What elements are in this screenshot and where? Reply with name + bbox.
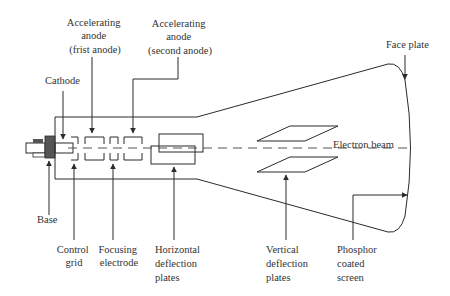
- label-phosphor-screen: Phosphor coated screen: [337, 244, 379, 283]
- crt-diagram: Accelerating anode (frist anode) Acceler…: [0, 0, 450, 296]
- label-vertical-plates: Vertical deflection plates: [266, 244, 311, 283]
- label-electron-beam: Electron beam: [333, 139, 394, 150]
- label-base: Base: [37, 214, 58, 225]
- label-second-anode: Accelerating anode (second anode): [148, 18, 212, 57]
- label-control-grid: Control grid: [57, 244, 92, 268]
- vertical-deflection-plates: [257, 126, 338, 172]
- label-face-plate: Face plate: [386, 39, 429, 50]
- horizontal-deflection-plates: [151, 134, 203, 164]
- base: [26, 136, 55, 158]
- label-horizontal-plates: Horizontal deflection plates: [155, 244, 203, 283]
- label-focusing-electrode: Focusing electrode: [98, 244, 139, 268]
- label-first-anode: Accelerating anode (frist anode): [67, 17, 123, 56]
- label-cathode: Cathode: [45, 75, 80, 86]
